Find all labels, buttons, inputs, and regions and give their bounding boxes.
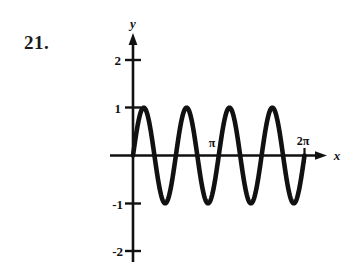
x-tick-label-2pi: 2π — [297, 134, 310, 148]
y-tick-label-neg1: -1 — [112, 197, 123, 212]
y-axis-label: y — [128, 16, 136, 31]
y-tick-label-1: 1 — [115, 101, 122, 116]
x-axis-arrowhead — [315, 151, 327, 160]
x-tick-label-pi: π — [209, 136, 216, 150]
y-axis-arrowhead — [129, 33, 138, 45]
y-tick-label-2: 2 — [115, 53, 122, 68]
x-axis-label: x — [333, 148, 341, 163]
y-tick-label-neg2: -2 — [112, 244, 123, 259]
sine-graph-figure: 2 1 -1 -2 π 2π y x — [0, 0, 361, 279]
figure-screenshot: 21. 2 1 -1 -2 π 2π y x — [0, 0, 361, 279]
